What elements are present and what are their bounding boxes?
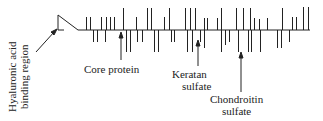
binding-region-triangle bbox=[58, 15, 310, 30]
chondroitin-sulfate-label: Chondroitin sulfate bbox=[210, 93, 263, 117]
proteoglycan-structure-drawing bbox=[0, 0, 323, 121]
chondroitin-label-line2: sulfate bbox=[210, 105, 263, 117]
pointer-arrows bbox=[36, 29, 243, 92]
proteoglycan-diagram: Hyaluronic acid binding region Core prot… bbox=[0, 0, 323, 121]
keratan-label-line1: Keratan bbox=[172, 68, 211, 80]
hyaluronic-acid-label: Hyaluronic acid binding region bbox=[6, 41, 30, 112]
keratan-arrowhead bbox=[196, 40, 200, 46]
hyaluronic-arrow-line bbox=[36, 31, 55, 52]
keratan-label-line2: sulfate bbox=[172, 80, 211, 92]
core-protein-label: Core protein bbox=[84, 63, 139, 75]
chondroitin-arrowhead bbox=[239, 52, 243, 58]
keratan-sulfate-label: Keratan sulfate bbox=[172, 68, 211, 92]
hyaluronic-label-line1: Hyaluronic acid bbox=[6, 41, 18, 112]
hyaluronic-label-line2: binding region bbox=[18, 41, 30, 112]
core-protein-arrowhead bbox=[119, 32, 123, 38]
core-protein-backbone bbox=[58, 15, 310, 30]
chondroitin-label-line1: Chondroitin bbox=[210, 93, 263, 105]
